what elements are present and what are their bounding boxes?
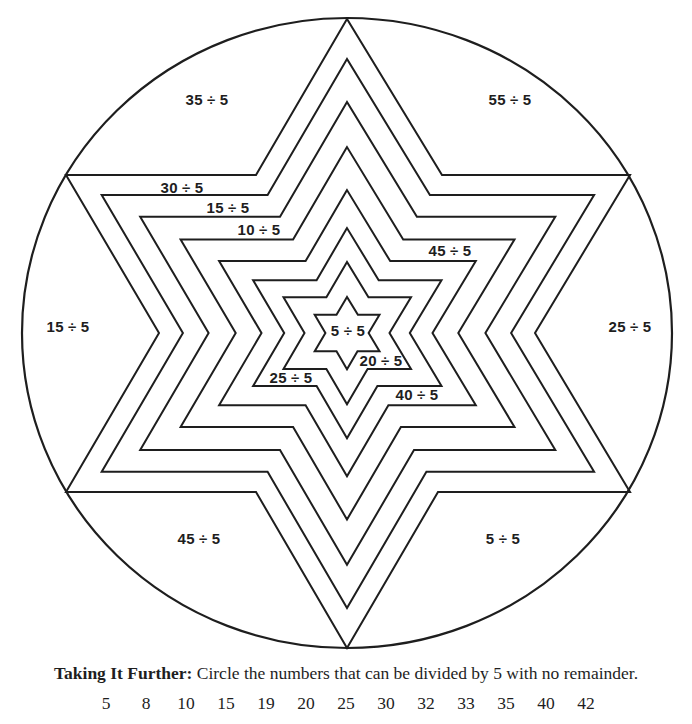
region-label-band-3[interactable]: 10 ÷ 5 [238, 221, 281, 238]
region-label-right[interactable]: 25 ÷ 5 [609, 318, 652, 335]
number-option[interactable]: 33 [456, 693, 476, 714]
region-label-band-4[interactable]: 45 ÷ 5 [429, 242, 472, 259]
region-label-band-5[interactable]: 40 ÷ 5 [396, 386, 439, 403]
number-option[interactable]: 15 [216, 693, 236, 714]
number-list: 581015192025303233354042 [0, 693, 692, 714]
region-label-band-6[interactable]: 25 ÷ 5 [270, 369, 313, 386]
number-option[interactable]: 35 [496, 693, 516, 714]
number-option[interactable]: 5 [96, 693, 116, 714]
instruction-heading: Taking It Further: [54, 663, 192, 683]
number-option[interactable]: 42 [576, 693, 596, 714]
number-option[interactable]: 20 [296, 693, 316, 714]
region-label-center[interactable]: 5 ÷ 5 [331, 322, 365, 339]
region-label-band-7[interactable]: 20 ÷ 5 [360, 352, 403, 369]
number-option[interactable]: 19 [256, 693, 276, 714]
region-label-band-1[interactable]: 30 ÷ 5 [161, 179, 204, 196]
number-option[interactable]: 25 [336, 693, 356, 714]
region-label-left[interactable]: 15 ÷ 5 [47, 318, 90, 335]
region-label-bottom-left[interactable]: 45 ÷ 5 [178, 530, 221, 547]
number-option[interactable]: 30 [376, 693, 396, 714]
number-option[interactable]: 40 [536, 693, 556, 714]
number-option[interactable]: 32 [416, 693, 436, 714]
region-label-top-left[interactable]: 35 ÷ 5 [186, 91, 229, 108]
region-label-bottom-right[interactable]: 5 ÷ 5 [486, 530, 520, 547]
region-label-band-2[interactable]: 15 ÷ 5 [207, 199, 250, 216]
region-label-top-right[interactable]: 55 ÷ 5 [489, 91, 532, 108]
instruction-line: Taking It Further: Circle the numbers th… [0, 663, 692, 684]
number-option[interactable]: 10 [176, 693, 196, 714]
instruction-text: Circle the numbers that can be divided b… [192, 663, 638, 683]
number-option[interactable]: 8 [136, 693, 156, 714]
